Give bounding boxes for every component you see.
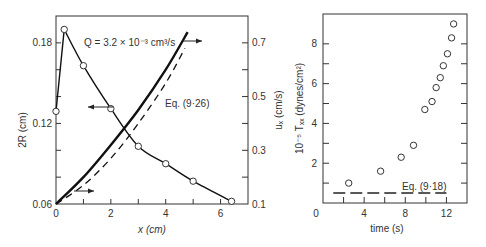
x-tick-label: 12 — [441, 208, 453, 219]
y-right-tick-label: 0.1 — [252, 199, 266, 210]
data-point — [108, 105, 114, 111]
series-line — [56, 32, 188, 204]
y-left-tick-label: 0.18 — [33, 37, 53, 48]
y-left-tick-label: 0.06 — [33, 199, 53, 210]
x-tick-label: 6 — [218, 208, 224, 219]
y-axis-label: 10⁻⁵ Tₓₓ (dynes/cm²) — [294, 63, 305, 154]
data-point — [433, 84, 439, 90]
chart-figure: 02460.060.120.180.10.30.50.7x (cm)2R (cm… — [0, 0, 486, 247]
data-point — [61, 26, 67, 32]
x-tick-label: 0 — [313, 208, 319, 219]
left-chart: 02460.060.120.180.10.30.50.7x (cm)2R (cm… — [17, 16, 284, 235]
right-plot-frame — [323, 14, 467, 203]
data-point — [440, 63, 446, 69]
data-point — [450, 21, 456, 27]
data-point — [190, 178, 196, 184]
data-point — [437, 74, 443, 80]
data-point — [448, 35, 454, 41]
data-point — [444, 51, 450, 57]
y-right-axis-label: uₓ (cm/s) — [273, 90, 284, 129]
x-tick-label: 2 — [108, 208, 114, 219]
y-left-tick-label: 0.12 — [33, 118, 53, 129]
data-point — [228, 198, 234, 204]
y-tick-label: 2 — [311, 158, 317, 169]
data-point — [429, 98, 435, 104]
data-point — [346, 180, 352, 186]
x-tick-label: 4 — [163, 208, 169, 219]
x-tick-label: 4 — [361, 208, 367, 219]
right-chart: 048122468time (s)10⁻⁵ Tₓₓ (dynes/cm²)Eq.… — [294, 14, 467, 234]
y-tick-label: 8 — [311, 38, 317, 49]
y-tick-label: 6 — [311, 78, 317, 89]
flow-rate-annotation: Q = 3.2 × 10⁻³ cm³/s — [84, 37, 175, 48]
y-tick-label: 4 — [311, 118, 317, 129]
eq-9-26-label: Eq. (9·26) — [165, 98, 209, 109]
data-point — [135, 143, 141, 149]
data-point — [410, 142, 416, 148]
y-right-tick-label: 0.5 — [252, 91, 266, 102]
y-right-tick-label: 0.3 — [252, 145, 266, 156]
data-point — [53, 108, 59, 114]
x-axis-label: x (cm) — [137, 224, 166, 235]
y-right-tick-label: 0.7 — [252, 37, 266, 48]
data-point — [398, 154, 404, 160]
eq-9-18-label: Eq. (9·18) — [402, 181, 446, 192]
data-point — [163, 161, 169, 167]
data-point — [377, 168, 383, 174]
x-tick-label: 0 — [53, 208, 59, 219]
data-point — [422, 106, 428, 112]
data-point — [80, 62, 86, 68]
y-left-axis-label: 2R (cm) — [17, 112, 28, 148]
x-tick-label: 8 — [403, 208, 409, 219]
x-axis-label: time (s) — [370, 223, 403, 234]
